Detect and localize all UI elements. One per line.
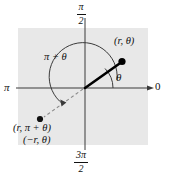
point-label-r-theta: (r, θ): [114, 36, 134, 47]
angle-label-pi-plus-theta: π + θ: [44, 52, 67, 63]
polar-coordinate-figure: π 0 π 2 3π 2 π + θ θ (r, θ) (r, π + θ) (…: [0, 0, 169, 175]
axis-label-pi-over-two-denominator: 2: [70, 16, 92, 27]
axis-label-three-pi-over-two: 3π 2: [68, 150, 94, 174]
axis-label-three-pi-over-two-numerator: 3π: [68, 150, 94, 161]
point-label-r-pi-plus-theta: (r, π + θ): [13, 123, 51, 134]
axis-label-zero: 0: [155, 81, 161, 92]
axis-label-three-pi-over-two-denominator: 2: [68, 164, 94, 175]
angle-label-theta: θ: [116, 72, 121, 83]
point-label-negative-r-theta: (−r, θ): [23, 135, 50, 146]
polar-point-marker: [118, 58, 125, 65]
axis-label-pi: π: [4, 82, 10, 93]
horizontal-axis-arrowhead: [147, 85, 154, 90]
axis-label-pi-over-two: π 2: [70, 2, 92, 26]
axis-label-pi-over-two-numerator: π: [70, 2, 92, 13]
